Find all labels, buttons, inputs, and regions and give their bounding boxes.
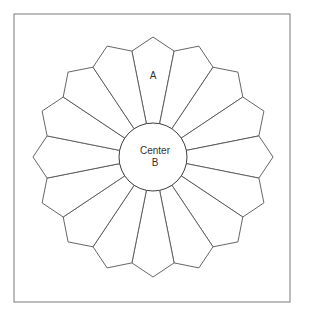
blade-label-a: A	[150, 70, 157, 81]
center-label-line1: Center	[140, 145, 171, 156]
dresden-plate-diagram: A Center B	[0, 0, 309, 320]
center-label-line2: B	[152, 157, 159, 168]
